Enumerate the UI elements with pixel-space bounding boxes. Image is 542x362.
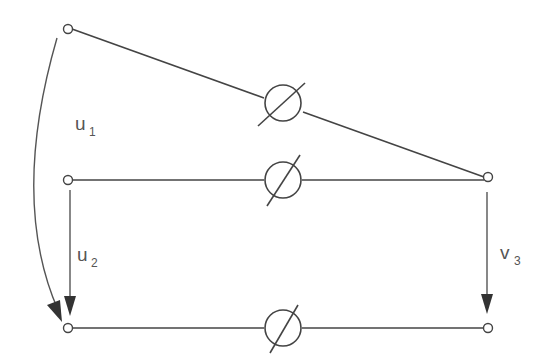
label-u1-sub: 1	[89, 125, 96, 139]
label-v3-main: v	[500, 242, 510, 263]
label-v3: v 3	[500, 242, 521, 268]
terminal-bottom-left	[64, 324, 73, 333]
terminal-top-left	[64, 25, 73, 34]
v3-arrow	[481, 192, 493, 314]
circuit-diagram: u 1 u 2 v 3	[0, 0, 542, 362]
element-top	[258, 83, 305, 126]
label-u1: u 1	[75, 113, 96, 139]
terminal-middle-right	[484, 173, 493, 182]
terminal-middle-left	[64, 176, 73, 185]
terminal-bottom-right	[484, 324, 493, 333]
label-v3-sub: 3	[514, 254, 521, 268]
element-middle	[265, 155, 301, 206]
u1-arrow	[34, 38, 62, 322]
u2-arrow	[64, 190, 76, 316]
label-u2: u 2	[77, 244, 98, 270]
v3-arrowhead	[481, 294, 493, 314]
label-u2-sub: 2	[91, 256, 98, 270]
element-bottom	[265, 305, 301, 353]
u1-arrowhead	[47, 300, 62, 322]
label-u1-main: u	[75, 113, 86, 134]
u2-arrowhead	[64, 296, 76, 316]
label-u2-main: u	[77, 244, 88, 265]
